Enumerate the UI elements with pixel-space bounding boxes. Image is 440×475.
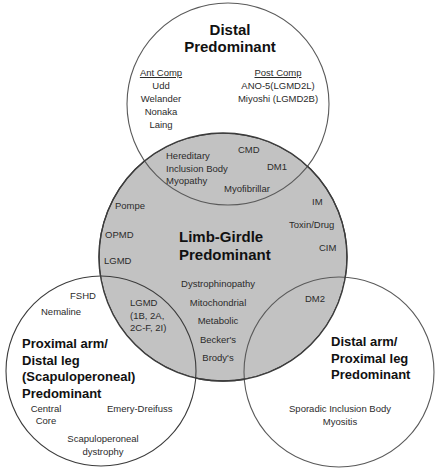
- title-line: Predominant: [170, 38, 290, 55]
- line: LGMD: [130, 297, 166, 310]
- left-item-emery-dreifuss: Emery-Dreifuss: [107, 403, 172, 415]
- center-circle-title: Limb-Girdle Predominant: [179, 228, 271, 264]
- ant-comp-header: Ant Comp: [116, 66, 206, 79]
- overlap-hibm: HereditaryInclusion BodyMyopathy: [166, 150, 228, 188]
- title-line: Distal arm/: [331, 334, 410, 351]
- list-item: ANO-5(LGMD2L): [218, 79, 338, 92]
- list-item: Laing: [116, 118, 206, 131]
- center-item-lgmd: LGMD: [104, 255, 131, 267]
- post-comp-header: Post Comp: [218, 66, 338, 79]
- title-line: Predominant: [22, 386, 135, 403]
- list-item: Miyoshi (LGMD2B): [218, 92, 338, 105]
- line: (1B, 2A,: [130, 310, 166, 323]
- ant-comp-group: Ant Comp Udd Welander Nonaka Laing: [116, 66, 206, 131]
- center-item-cim: CIM: [319, 242, 336, 254]
- list-item: Nonaka: [116, 105, 206, 118]
- center-item-pompe: Pompe: [115, 200, 145, 212]
- center-item-im: IM: [312, 196, 323, 208]
- list-item: Welander: [116, 92, 206, 105]
- list-item: Metabolic: [170, 312, 266, 331]
- list-item: Brody's: [170, 349, 266, 368]
- center-item-opmd: OPMD: [105, 229, 134, 241]
- overlap-cmd: CMD: [238, 144, 260, 156]
- list-item: Becker's: [170, 331, 266, 350]
- center-bottom-list: Dystrophinopathy Mitochondrial Metabolic…: [170, 275, 266, 368]
- list-item: Udd: [116, 79, 206, 92]
- center-item-toxin-drug: Toxin/Drug: [289, 219, 334, 231]
- list-item: Dystrophinopathy: [170, 275, 266, 294]
- title-line: Proximal leg: [331, 351, 410, 368]
- left-item-fshd: FSHD: [70, 290, 96, 302]
- title-line: Limb-Girdle: [179, 228, 271, 246]
- title-line: (Scapuloperoneal): [22, 369, 135, 386]
- title-line: Distal: [170, 21, 290, 38]
- left-item-scapuloperoneal-dystrophy: Scapuloperonealdystrophy: [58, 433, 148, 458]
- top-circle-title: Distal Predominant: [170, 21, 290, 55]
- overlap-dm2: DM2: [305, 293, 325, 305]
- overlap-dm1: DM1: [267, 161, 287, 173]
- overlap-myofibrillar: Myofibrillar: [224, 183, 270, 195]
- left-item-nemaline: Nemaline: [41, 306, 81, 318]
- left-circle-title: Proximal arm/ Distal leg (Scapuloperonea…: [22, 336, 135, 402]
- title-line: Predominant: [331, 367, 410, 384]
- left-item-central-core: CentralCore: [26, 403, 66, 427]
- title-line: Predominant: [179, 246, 271, 264]
- right-circle-title: Distal arm/ Proximal leg Predominant: [331, 334, 410, 384]
- right-item-sibm: Sporadic Inclusion BodyMyositis: [280, 402, 400, 428]
- list-item: Mitochondrial: [170, 294, 266, 313]
- post-comp-group: Post Comp ANO-5(LGMD2L) Miyoshi (LGMD2B): [218, 66, 338, 105]
- title-line: Distal leg: [22, 353, 135, 370]
- overlap-lgmd-subtypes: LGMD (1B, 2A, 2C-F, 2I): [130, 297, 166, 335]
- line: 2C-F, 2I): [130, 322, 166, 335]
- title-line: Proximal arm/: [22, 336, 135, 353]
